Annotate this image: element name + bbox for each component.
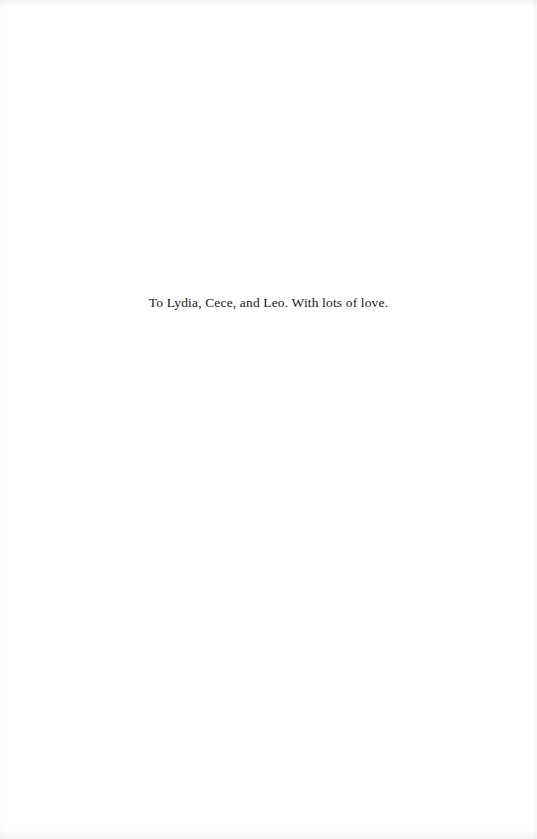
dedication-text: To Lydia, Cece, and Leo. With lots of lo… bbox=[0, 294, 537, 312]
book-page: To Lydia, Cece, and Leo. With lots of lo… bbox=[0, 0, 537, 839]
